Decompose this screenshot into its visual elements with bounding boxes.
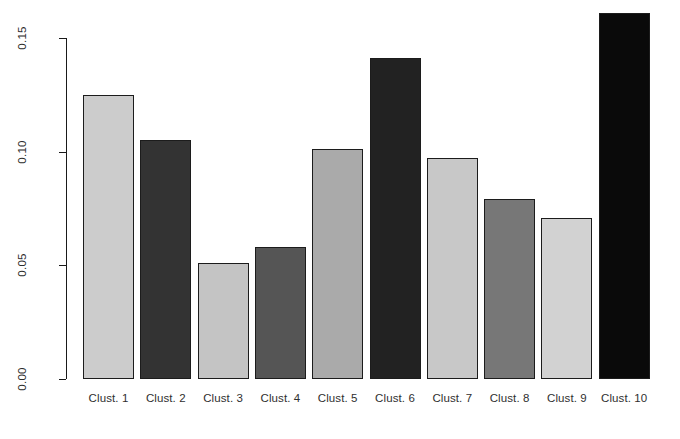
- y-axis-tick: [59, 38, 66, 39]
- y-axis-tick-label-text: 0.15: [16, 26, 28, 50]
- bar: [312, 149, 363, 379]
- y-axis-tick-label: 0.00: [0, 372, 48, 386]
- bar: [140, 140, 191, 379]
- y-axis-line: [66, 38, 67, 379]
- bar-chart: 0.000.050.100.15 Clust. 1Clust. 2Clust. …: [0, 0, 680, 439]
- y-axis-tick: [59, 152, 66, 153]
- y-axis-tick-label: 0.10: [0, 145, 48, 159]
- y-axis-tick-label: 0.15: [0, 31, 48, 45]
- y-axis-tick-label-text: 0.00: [16, 367, 28, 391]
- y-axis-tick-label-text: 0.05: [16, 254, 28, 278]
- bar: [255, 247, 306, 379]
- y-axis-tick: [59, 265, 66, 266]
- x-axis-tick-label: Clust. 10: [591, 392, 658, 404]
- bar: [198, 263, 249, 379]
- bar: [370, 58, 421, 379]
- bar: [541, 218, 592, 379]
- plot-area: 0.000.050.100.15 Clust. 1Clust. 2Clust. …: [0, 0, 680, 439]
- bar: [599, 13, 650, 379]
- bar: [427, 158, 478, 379]
- y-axis-tick-label-text: 0.10: [16, 140, 28, 164]
- bar: [83, 95, 134, 379]
- y-axis-tick-label: 0.05: [0, 258, 48, 272]
- bar: [484, 199, 535, 379]
- y-axis-tick: [59, 379, 66, 380]
